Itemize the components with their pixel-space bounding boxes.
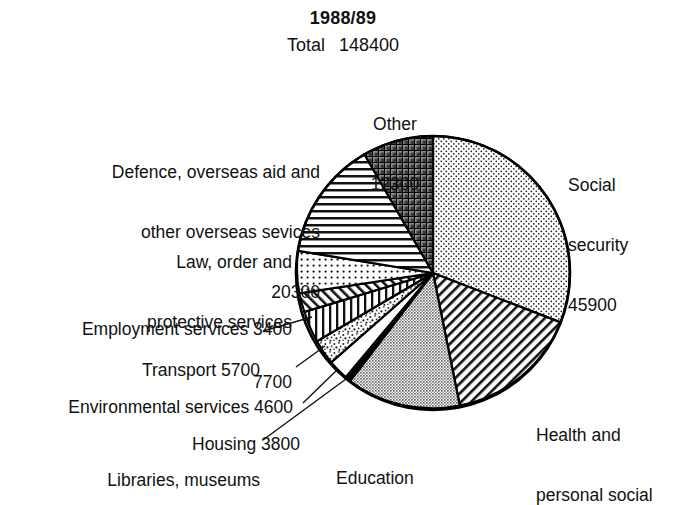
slice-label-education: Education 20100	[336, 428, 506, 505]
slice-label-other-line2: 12300	[330, 174, 460, 194]
slice-label-other: Other 12300	[330, 74, 460, 234]
slice-label-defence-line1: Defence, overseas aid and	[30, 162, 320, 182]
slice-label-law-order-line1: Law, order and	[60, 252, 292, 272]
slice-label-social-security-line2: security	[568, 235, 686, 255]
leader-line-environmental	[296, 346, 325, 367]
pie-chart-figure: 1988/89 Total148400	[0, 0, 686, 505]
slice-label-health-line2: personal social	[536, 485, 686, 505]
slice-label-other-line1: Other	[330, 114, 460, 134]
slice-label-health-line1: Health and	[536, 425, 686, 445]
slice-label-social-security-line3: 45900	[568, 295, 686, 315]
slice-label-health: Health and personal social services 2360…	[536, 385, 686, 505]
slice-label-social-security: Social security 45900	[568, 135, 686, 355]
slice-label-libraries: Libraries, museums and the arts 1000	[20, 430, 260, 505]
slice-label-libraries-line1: Libraries, museums	[20, 470, 260, 490]
slice-label-social-security-line1: Social	[568, 175, 686, 195]
slice-label-education-line1: Education	[336, 468, 506, 488]
